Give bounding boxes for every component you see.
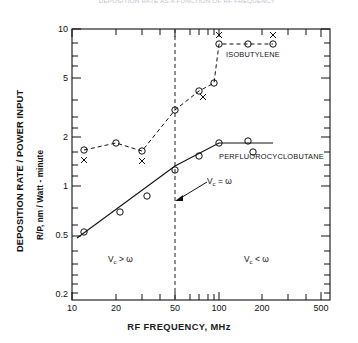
vc-greater-subscript: c xyxy=(114,258,117,265)
vc-equals-rest: = ω xyxy=(216,176,232,186)
region-label-vc-less: Vc < ω xyxy=(244,254,269,264)
vc-less-rest: < ω xyxy=(253,254,269,264)
vc-equals-symbol: V xyxy=(207,176,213,186)
figure-container: DEPOSITION RATE AS A FUNCTION OF RF FREQ… xyxy=(0,0,358,343)
perfluorocyclobutane-series-label: PERFLUOROCYCLOBUTANE xyxy=(219,152,324,161)
vc-greater-rest: > ω xyxy=(117,254,133,264)
region-label-vc-greater: Vc > ω xyxy=(108,254,133,264)
vc-greater-symbol: V xyxy=(108,254,114,264)
vc-less-subscript: c xyxy=(250,258,253,265)
isobutylene-series-label: ISOBUTYLENE xyxy=(226,50,280,59)
plot-canvas xyxy=(0,0,358,343)
critical-frequency-annotation: Vc = ω xyxy=(207,176,232,186)
vc-equals-subscript: c xyxy=(213,180,216,187)
isobutylene-curve xyxy=(84,44,273,151)
vc-less-symbol: V xyxy=(244,254,250,264)
critical-frequency-arrow xyxy=(175,182,207,201)
